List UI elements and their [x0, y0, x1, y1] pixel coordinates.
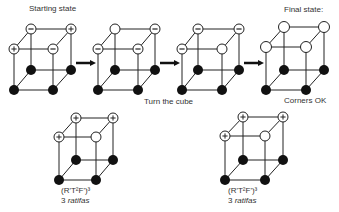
arrow-right-icon [76, 60, 96, 66]
plus-corner-icon [108, 113, 118, 123]
cube-step2 [98, 29, 155, 90]
open-corner-icon [319, 22, 330, 33]
open-corner-icon [110, 24, 120, 34]
label-starting-state: Starting state [29, 4, 76, 13]
cube-start [14, 29, 71, 90]
arrow-right-icon [244, 60, 264, 66]
plus-corner-icon [238, 112, 248, 122]
count-left-word: ratifas [68, 196, 90, 205]
minus-corner-icon [26, 24, 36, 34]
plus-corner-icon [278, 112, 288, 122]
label-final-state: Final state: [284, 5, 323, 14]
formula-right: (R'T²F')³ [228, 186, 257, 195]
plus-corner-icon [54, 132, 64, 142]
cube-step3 [182, 29, 239, 90]
count-right-word: ratifas [235, 196, 257, 205]
plus-corner-icon [66, 24, 76, 34]
minus-corner-icon [193, 24, 203, 34]
cube-final [266, 27, 324, 90]
formula-left: (R'T²F')³ [61, 186, 90, 195]
count-right: 3 ratifas [228, 196, 256, 205]
label-turn-the-cube: Turn the cube [144, 97, 193, 106]
arrow-right-icon [160, 60, 180, 66]
count-left: 3 ratifas [61, 196, 89, 205]
minus-corner-icon [48, 44, 58, 54]
minus-corner-icon [133, 44, 143, 54]
minus-corner-icon [93, 44, 103, 54]
open-corner-icon [217, 44, 227, 54]
plus-corner-icon [220, 131, 230, 141]
minus-corner-icon [150, 24, 160, 34]
cube-diagram [0, 0, 339, 212]
plus-corner-icon [9, 44, 19, 54]
count-right-number: 3 [228, 196, 232, 205]
open-corner-icon [260, 131, 270, 141]
minus-corner-icon [177, 44, 187, 54]
open-corner-icon [91, 132, 101, 142]
open-corner-icon [261, 42, 272, 53]
minus-corner-icon [234, 24, 244, 34]
cube-alg-right [225, 117, 283, 180]
open-corner-icon [279, 22, 290, 33]
open-corner-icon [301, 42, 312, 53]
plus-corner-icon [71, 113, 81, 123]
cube-alg-left [59, 118, 113, 180]
label-corners-ok: Corners OK [284, 96, 326, 105]
count-left-number: 3 [61, 196, 65, 205]
